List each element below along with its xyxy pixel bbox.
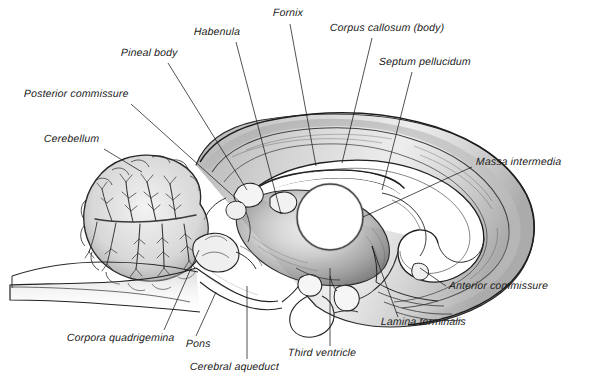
- label-lamina-terminalis: Lamina terminalis: [381, 316, 466, 327]
- label-habenula: Habenula: [194, 26, 241, 37]
- label-fornix: Fornix: [273, 7, 303, 18]
- label-third-ventricle: Third ventricle: [288, 347, 357, 358]
- label-cerebellum: Cerebellum: [44, 133, 100, 144]
- label-posterior-commissure: Posterior commissure: [24, 88, 129, 99]
- corpora-quadrigemina-body: [193, 233, 239, 272]
- brain-diagram-figure: Habenula Fornix Corpus callosum (body) S…: [0, 0, 593, 392]
- label-pons: Pons: [186, 338, 211, 349]
- pituitary-gland: [334, 285, 359, 311]
- label-septum-pellucidum: Septum pellucidum: [379, 56, 471, 67]
- label-corpora-quadrigemina: Corpora quadrigemina: [67, 332, 175, 343]
- anterior-commissure-body: [412, 263, 429, 280]
- habenula-knob: [270, 192, 297, 213]
- label-pineal-body: Pineal body: [121, 47, 178, 58]
- mammillary-body: [298, 275, 322, 297]
- posterior-commissure-oval: [226, 201, 246, 219]
- label-cerebral-aqueduct: Cerebral aqueduct: [190, 361, 279, 372]
- leader-pons: [196, 292, 216, 336]
- label-corpus-callosum-body: Corpus callosum (body): [330, 22, 445, 33]
- label-anterior-commissure: Anterior commissure: [449, 280, 548, 291]
- label-massa-intermedia: Massa intermedia: [476, 156, 562, 167]
